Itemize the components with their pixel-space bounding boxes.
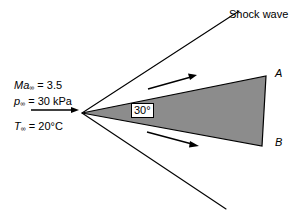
wedge-angle-label: 30° bbox=[131, 103, 154, 118]
mach-symbol: Ma bbox=[14, 79, 29, 91]
lower-flow-arrow bbox=[147, 132, 199, 148]
upper-flow-arrow bbox=[148, 74, 197, 90]
point-b-label: B bbox=[275, 137, 282, 148]
freestream-pressure-label: p∞ = 30 kPa bbox=[14, 96, 72, 107]
shock-wave-label: Shock wave bbox=[229, 9, 288, 20]
wedge-body bbox=[82, 76, 266, 146]
freestream-temperature-label: T∞ = 20°C bbox=[14, 121, 63, 132]
freestream-mach-label: Ma∞ = 3.5 bbox=[14, 80, 62, 91]
temperature-symbol: T bbox=[14, 120, 21, 132]
point-a-label: A bbox=[275, 68, 282, 79]
wedge-shock-diagram: Shock wave Ma∞ = 3.5 p∞ = 30 kPa T∞ = 20… bbox=[0, 0, 302, 214]
mach-value: = 3.5 bbox=[34, 79, 62, 91]
pressure-value: = 30 kPa bbox=[25, 95, 72, 107]
temperature-value: = 20°C bbox=[26, 120, 63, 132]
freestream-flow-arrow bbox=[31, 107, 79, 113]
